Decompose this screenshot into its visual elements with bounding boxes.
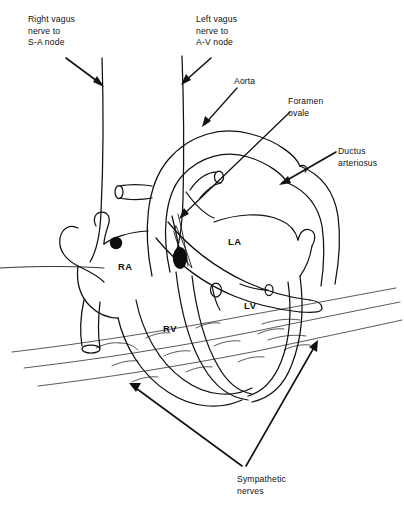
sympathetic-nerve-fibers xyxy=(12,288,402,386)
label-sympathetic-nerves: Sympathetic nerves xyxy=(237,474,286,497)
label-right-ventricle: RV xyxy=(163,323,177,334)
label-right-vagus-nerve: Right vagus nerve to S-A node xyxy=(28,14,75,49)
ductus-arteriosus-leader xyxy=(279,152,336,185)
label-left-ventricle: LV xyxy=(244,300,256,311)
foramen-ovale-leader xyxy=(179,112,290,219)
arch-branch-vessels xyxy=(115,171,224,218)
label-left-atrium: LA xyxy=(228,236,242,247)
av-node-marker xyxy=(173,247,187,269)
right-vagus-leader xyxy=(66,58,104,87)
heart-anatomy-drawing xyxy=(0,0,404,508)
heart-outline-atria xyxy=(0,212,315,353)
label-right-atrium: RA xyxy=(118,261,133,272)
sympathetic-leader-left xyxy=(129,383,242,466)
label-aorta: Aorta xyxy=(234,76,255,88)
cardiac-innervation-figure: Right vagus nerve to S-A node Left vagus… xyxy=(0,0,404,508)
aorta-leader xyxy=(202,88,237,127)
sa-node-marker xyxy=(110,237,122,249)
label-left-vagus-nerve: Left vagus nerve to A-V node xyxy=(196,14,237,49)
label-ductus-arteriosus: Ductus arteriosus xyxy=(338,146,377,169)
left-vagus-leader xyxy=(181,58,211,85)
label-foramen-ovale: Foramen ovale xyxy=(288,96,323,119)
